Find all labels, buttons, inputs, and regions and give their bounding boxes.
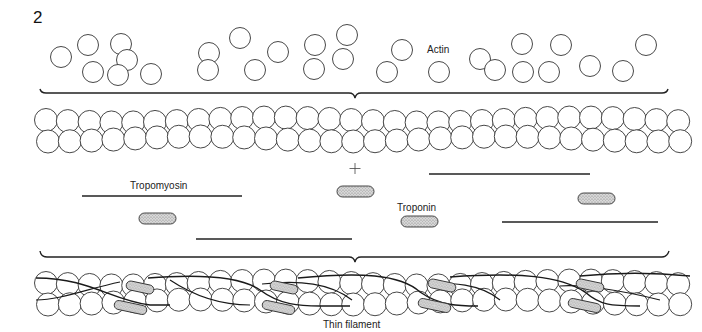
plus-sign — [350, 163, 361, 174]
actin-label: Actin — [427, 44, 449, 55]
troponin-label: Troponin — [397, 202, 436, 213]
diagram-artwork — [0, 0, 702, 332]
f-actin-filament — [35, 106, 692, 153]
assembled-thin-filament — [35, 269, 692, 316]
muscle-thin-filament-diagram: 2 Actin Tropomyosin Troponin — [0, 0, 702, 332]
troponin-complexes — [139, 186, 615, 227]
free-actin-monomers — [51, 25, 657, 86]
brace-top — [40, 89, 668, 98]
brace-bottom — [40, 251, 669, 262]
thin-filament-label: Thin filament — [323, 319, 380, 330]
tropomyosin-label: Tropomyosin — [130, 180, 187, 191]
